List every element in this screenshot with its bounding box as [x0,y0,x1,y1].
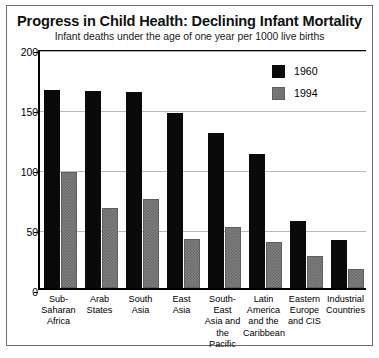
bar-group [208,51,241,288]
x-axis-labels: Sub-SaharanAfricaArabStatesSouthAsiaEast… [38,294,366,352]
bar-1994 [184,239,200,288]
bar-1994 [143,199,159,288]
bar-group [126,51,159,288]
bar-group [331,51,364,288]
x-tick-label: Sub-SaharanAfrica [38,294,79,328]
chart-legend: 1960 1994 [272,62,318,106]
bar-group [167,51,200,288]
y-tick-mark [34,292,38,293]
x-tick-label: SouthAsia [120,294,161,316]
bar-1960 [126,92,142,288]
chart-title: Progress in Child Health: Declining Infa… [0,13,379,29]
y-axis: 050100150200 [0,50,38,292]
bar-1994 [348,269,364,288]
bar-1994 [102,208,118,288]
bar-1994 [266,242,282,288]
chart-figure: Progress in Child Health: Declining Infa… [0,0,379,358]
bar-1994 [225,227,241,288]
legend-swatch-1994 [272,87,285,100]
bar-1994 [61,172,77,288]
legend-label-1960: 1960 [294,65,318,77]
x-tick-label: EasternEuropeand CIS [284,294,325,328]
bar-1960 [208,133,224,288]
x-tick-label: South-EastAsia andthe Pacific [202,294,243,350]
legend-item-1960: 1960 [272,62,318,80]
chart-subtitle: Infant deaths under the age of one year … [0,31,379,42]
legend-swatch-1960 [272,65,285,78]
x-tick-label: ArabStates [79,294,120,316]
bar-group [85,51,118,288]
x-tick-label: LatinAmericaand theCaribbean [243,294,284,339]
bar-1960 [249,154,265,288]
legend-label-1994: 1994 [294,87,318,99]
legend-item-1994: 1994 [272,84,318,102]
bar-1994 [307,256,323,288]
bar-1960 [44,90,60,288]
x-tick-label: IndustrialCountries [325,294,366,316]
bar-1960 [85,91,101,288]
bar-1960 [331,240,347,288]
bar-1960 [290,221,306,288]
x-tick-label: EastAsia [161,294,202,316]
bar-group [44,51,77,288]
bar-1960 [167,113,183,288]
